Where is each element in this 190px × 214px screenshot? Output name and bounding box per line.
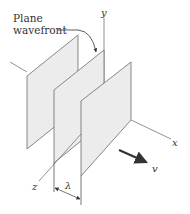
- y-axis-label: y: [100, 7, 107, 18]
- z-axis-label: z: [31, 181, 38, 192]
- x-axis: [131, 120, 171, 139]
- incoming-line: [10, 62, 27, 72]
- velocity-arrow-icon: [119, 150, 146, 162]
- velocity-label: v: [152, 163, 158, 174]
- callout-label-line1: Plane: [13, 12, 43, 24]
- wavelength-label: λ: [64, 180, 71, 191]
- callout-label-line2: wavefront: [13, 24, 67, 36]
- x-axis-label: x: [172, 137, 178, 148]
- plane-wave-diagram: Plane wavefront y x z v λ: [0, 0, 190, 214]
